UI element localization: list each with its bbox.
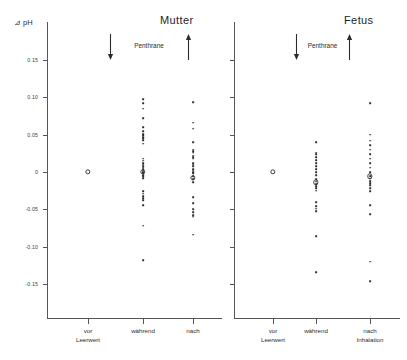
penthrane-arrow-down-fetus: [292, 34, 301, 60]
y-tick-fetus-3: [230, 172, 235, 173]
y-tick-mother-5: [43, 247, 48, 248]
data-point: [369, 144, 371, 146]
y-tick-mother-3: [43, 172, 48, 173]
data-point: [142, 98, 144, 100]
mean-marker-fetus-2: [367, 174, 372, 179]
x-tick-fetus-2: [370, 319, 371, 324]
data-point: [192, 197, 194, 199]
y-tick-fetus-1: [230, 97, 235, 98]
x-tick-fetus-0: [273, 319, 274, 324]
data-point: [369, 140, 371, 142]
penthrane-arrow-up-fetus: [345, 34, 354, 60]
data-point: [369, 158, 371, 160]
x-label-fetus-2: nachInhalation: [357, 326, 384, 344]
data-point: [192, 122, 194, 124]
data-point: [192, 152, 194, 154]
arrow-down-icon: [106, 34, 115, 60]
y-tick-mother-1: [43, 97, 48, 98]
y-axis-title: ⊿ pH: [14, 18, 33, 27]
data-point: [369, 188, 371, 190]
y-tick-fetus-2: [230, 135, 235, 136]
x-tick-fetus-1: [316, 319, 317, 324]
data-point: [315, 190, 317, 192]
data-point: [142, 200, 144, 202]
data-point: [369, 185, 371, 187]
y-axis-fetus: [234, 22, 235, 318]
mean-marker-fetus-0: [270, 169, 275, 174]
data-point: [369, 162, 371, 164]
x-axis-fetus: [234, 318, 400, 319]
data-point: [315, 271, 317, 273]
data-point: [142, 130, 144, 132]
y-tick-label-6: -0.15: [8, 281, 38, 287]
y-tick-fetus-6: [230, 284, 235, 285]
y-tick-label-3: 0: [8, 169, 38, 175]
data-point: [142, 117, 144, 119]
y-tick-label-1: 0.10: [8, 94, 38, 100]
data-point: [142, 139, 144, 141]
data-point: [369, 149, 371, 151]
delta-symbol: ⊿: [13, 18, 21, 27]
y-tick-fetus-5: [230, 247, 235, 248]
x-label-line-1: Inhalation: [357, 335, 384, 344]
data-point: [369, 153, 371, 155]
data-point: [315, 162, 317, 164]
y-tick-fetus-0: [230, 60, 235, 61]
data-point: [192, 182, 194, 184]
data-point: [192, 128, 194, 130]
mean-marker-mother-1: [140, 169, 145, 174]
data-point: [142, 225, 144, 227]
mean-marker-fetus-1: [313, 180, 318, 185]
data-point: [369, 204, 371, 206]
arrow-up-icon: [345, 34, 354, 60]
data-point: [315, 156, 317, 158]
data-point: [369, 134, 371, 136]
x-label-line-0: nach: [186, 326, 199, 335]
data-point: [369, 213, 371, 215]
mean-marker-mother-2: [190, 175, 195, 180]
x-label-line-1: Leerwert: [76, 335, 100, 344]
data-point: [192, 234, 194, 236]
data-point: [192, 165, 194, 167]
x-label-mother-2: nach: [186, 326, 199, 335]
data-point: [369, 167, 371, 169]
penthrane-arrow-down-mother: [106, 34, 115, 60]
x-label-fetus-0: vorLeerwert: [261, 326, 285, 344]
data-point: [315, 168, 317, 170]
y-tick-mother-4: [43, 209, 48, 210]
penthrane-label-mother: Penthrane: [134, 42, 164, 49]
data-point: [315, 201, 317, 203]
data-point: [192, 141, 194, 143]
x-tick-mother-2: [193, 319, 194, 324]
mean-marker-mother-0: [85, 169, 90, 174]
y-tick-label-2: 0.05: [8, 132, 38, 138]
panel-title-fetus: Fetus: [344, 14, 374, 26]
y-tick-fetus-4: [230, 209, 235, 210]
x-label-line-0: vor: [76, 326, 100, 335]
data-point: [369, 261, 371, 263]
data-point: [315, 210, 317, 212]
y-tick-mother-6: [43, 284, 48, 285]
penthrane-label-fetus: Penthrane: [308, 42, 338, 49]
data-point: [192, 158, 194, 160]
arrow-up-icon: [184, 34, 193, 60]
arrow-down-icon: [292, 34, 301, 60]
x-label-fetus-1: während: [304, 326, 328, 335]
y-tick-mother-0: [43, 60, 48, 61]
y-tick-mother-2: [43, 135, 48, 136]
data-point: [192, 216, 194, 218]
x-tick-mother-1: [143, 319, 144, 324]
scatter-figure: ⊿ pH0.150.100.050-0.05-0.10-0.15vorLeerw…: [0, 0, 407, 360]
data-point: [142, 204, 144, 206]
data-point: [192, 211, 194, 213]
data-point: [142, 143, 144, 145]
x-label-line-0: nach: [357, 326, 384, 335]
x-label-line-0: vor: [261, 326, 285, 335]
data-point: [315, 153, 317, 155]
data-point: [369, 171, 371, 173]
data-point: [142, 102, 144, 104]
x-tick-mother-0: [88, 319, 89, 324]
data-point: [315, 235, 317, 237]
data-point: [192, 101, 194, 103]
data-point: [315, 174, 317, 176]
